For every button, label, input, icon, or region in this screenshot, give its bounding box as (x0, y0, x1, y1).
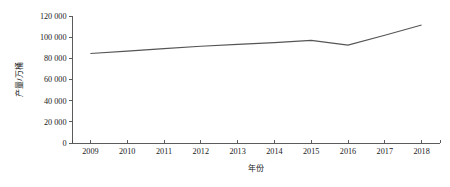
x-tick-label: 2014 (266, 147, 282, 156)
chart-canvas: 020 00040 00060 00080 000100 000120 000 … (0, 0, 450, 187)
x-tick-label: 2012 (193, 147, 209, 156)
x-axis: 2009201020112012201320142015201620172018 (72, 140, 440, 156)
x-tick-label: 2013 (229, 147, 245, 156)
y-axis-title: 产量/万桶 (14, 62, 24, 96)
data-series-group (90, 25, 421, 53)
y-tick-label: 0 (62, 139, 66, 148)
x-tick-label: 2015 (303, 147, 319, 156)
x-axis-title: 年份 (248, 163, 264, 173)
y-tick-label: 120 000 (40, 12, 67, 21)
x-tick-label: 2016 (340, 147, 356, 156)
x-tick-label: 2011 (156, 147, 172, 156)
y-tick-label: 60 000 (44, 75, 67, 84)
y-tick-label: 80 000 (44, 54, 67, 63)
line-chart: 020 00040 00060 00080 000100 000120 000 … (0, 0, 450, 187)
y-tick-label: 20 000 (44, 118, 67, 127)
x-tick-label: 2017 (377, 147, 393, 156)
y-tick-label: 100 000 (40, 33, 67, 42)
x-tick-label: 2018 (413, 147, 429, 156)
y-tick-label: 40 000 (44, 97, 67, 106)
data-line-1 (90, 25, 421, 53)
x-tick-label: 2010 (119, 147, 135, 156)
y-axis: 020 00040 00060 00080 000100 000120 000 (40, 12, 72, 148)
x-tick-label: 2009 (82, 147, 98, 156)
